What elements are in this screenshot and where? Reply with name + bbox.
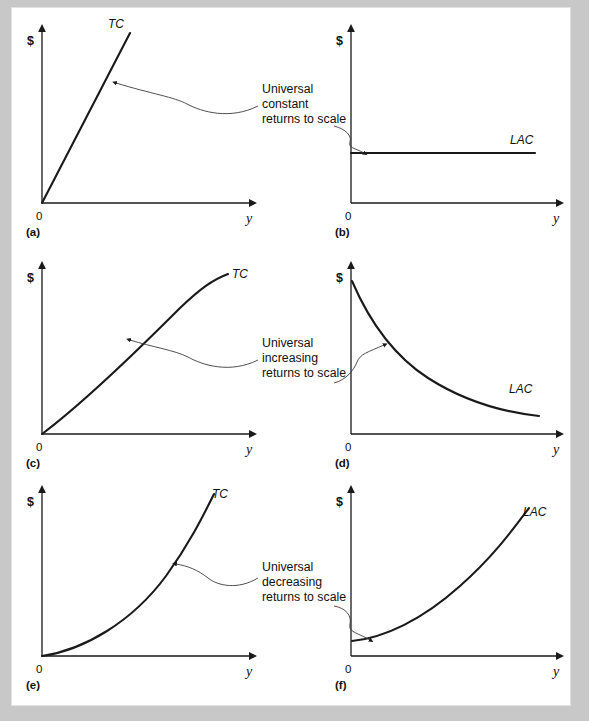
- annotation-3-line-2: decreasing: [262, 575, 322, 589]
- panel-a-y-axis-label: $: [27, 34, 34, 48]
- panel-f: $ y 0 LAC (f): [335, 492, 560, 691]
- panel-e-y-axis-label: $: [27, 495, 34, 509]
- annotation-leader-a: [116, 83, 258, 114]
- annotation-leader-e: [176, 564, 258, 586]
- annotation-leader-c: [130, 340, 258, 367]
- annotation-constant-returns: Universal constant returns to scale: [262, 82, 346, 126]
- panel-d: $ y 0 LAC (d): [335, 268, 560, 469]
- panel-a-x-axis-label: y: [244, 211, 253, 226]
- panel-b-label: (b): [335, 226, 350, 238]
- panel-e-curve-label: TC: [212, 487, 228, 501]
- panel-d-x-axis-label: y: [551, 442, 560, 457]
- panel-b-origin-label: 0: [345, 210, 351, 222]
- annotation-3-line-3: returns to scale: [262, 590, 346, 604]
- annotation-1-line-3: returns to scale: [262, 112, 346, 126]
- panel-b: $ y 0 LAC (b): [335, 31, 560, 238]
- panel-c-curve-label: TC: [232, 267, 248, 281]
- panel-c: $ y 0 TC (c): [26, 267, 253, 469]
- panel-f-origin-label: 0: [345, 663, 351, 675]
- panel-a: $ y 0 TC (a): [26, 17, 253, 238]
- panel-e-label: (e): [26, 679, 40, 691]
- cost-curves-figure: $ y 0 TC (a) Universal constant returns …: [12, 8, 570, 705]
- panel-e-origin-label: 0: [36, 663, 42, 675]
- panel-f-curve-label: LAC: [523, 505, 547, 519]
- panel-c-origin-label: 0: [36, 441, 42, 453]
- panel-d-label: (d): [335, 457, 350, 469]
- annotation-2-line-1: Universal: [262, 336, 313, 350]
- panel-e-tc-curve: [42, 494, 214, 656]
- annotation-1-line-2: constant: [262, 97, 309, 111]
- panel-d-y-axis-label: $: [336, 271, 343, 285]
- annotation-decreasing-returns: Universal decreasing returns to scale: [262, 560, 346, 604]
- panel-c-label: (c): [26, 457, 40, 469]
- panel-c-x-axis-label: y: [244, 442, 253, 457]
- panel-a-tc-curve: [42, 33, 130, 203]
- panel-e: $ y 0 TC (e): [26, 487, 253, 691]
- panel-d-curve-label: LAC: [509, 382, 533, 396]
- annotation-2-line-3: returns to scale: [262, 366, 346, 380]
- annotation-1-line-1: Universal: [262, 82, 313, 96]
- panel-a-curve-label: TC: [108, 17, 124, 31]
- annotation-2-line-2: increasing: [262, 351, 318, 365]
- panel-b-curve-label: LAC: [510, 133, 534, 147]
- annotation-3-line-1: Universal: [262, 560, 313, 574]
- annotation-increasing-returns: Universal increasing returns to scale: [262, 336, 346, 380]
- panel-c-tc-curve: [42, 274, 228, 434]
- panel-a-label: (a): [26, 226, 40, 238]
- panel-f-x-axis-label: y: [551, 664, 560, 679]
- panel-e-x-axis-label: y: [244, 664, 253, 679]
- panel-b-x-axis-label: y: [551, 211, 560, 226]
- annotation-leader-f: [334, 606, 370, 640]
- panel-f-lac-curve: [352, 508, 529, 641]
- panel-f-label: (f): [335, 679, 347, 691]
- panel-f-y-axis-label: $: [336, 495, 343, 509]
- panel-b-y-axis-label: $: [336, 34, 343, 48]
- panel-d-origin-label: 0: [345, 441, 351, 453]
- figure-page: $ y 0 TC (a) Universal constant returns …: [12, 8, 570, 705]
- panel-a-origin-label: 0: [36, 210, 42, 222]
- annotation-leader-b: [334, 126, 364, 153]
- panel-c-y-axis-label: $: [27, 271, 34, 285]
